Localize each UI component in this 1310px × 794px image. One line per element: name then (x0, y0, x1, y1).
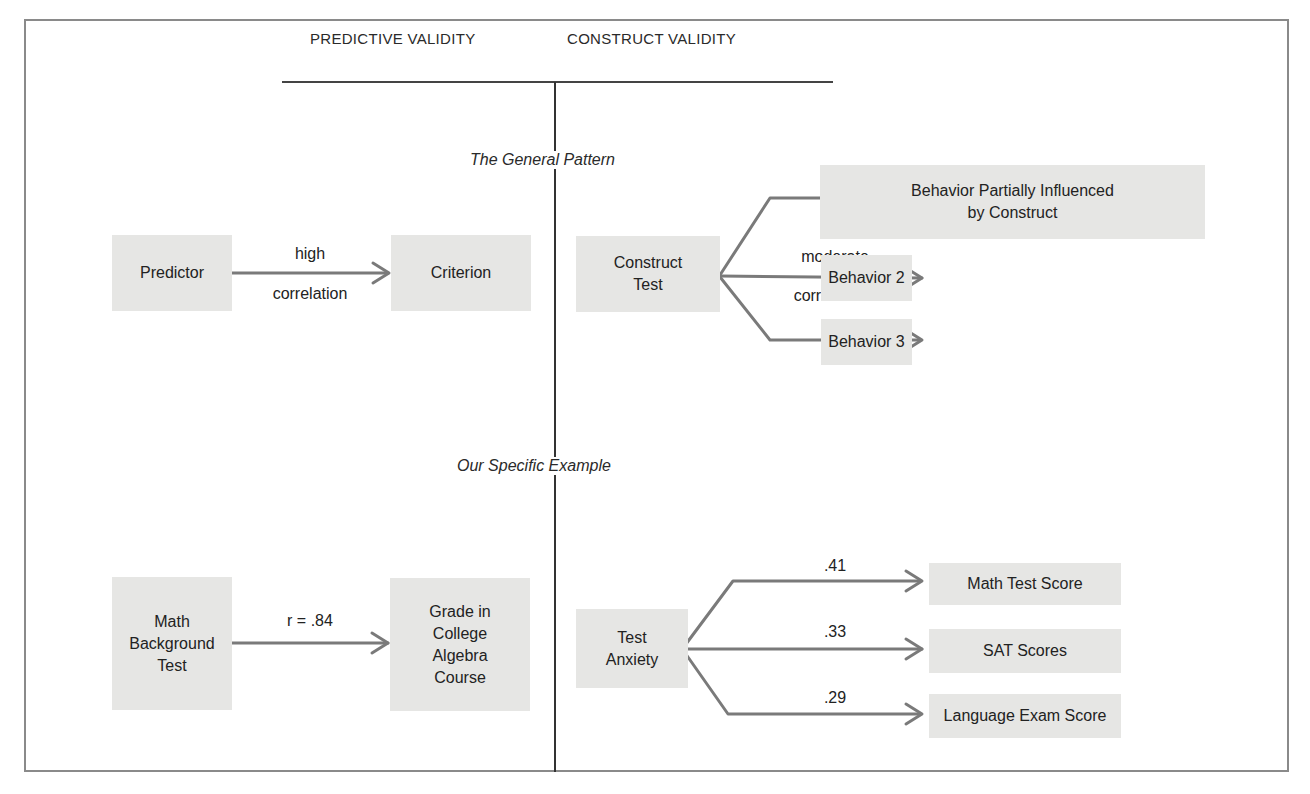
label-r-41: .41 (805, 557, 865, 575)
box-criterion: Criterion (391, 235, 531, 311)
box-sat-scores: SAT Scores (929, 629, 1121, 673)
box-math-background-test: Math Background Test (112, 577, 232, 710)
arrow-anxiety-language (683, 650, 920, 714)
arrow-anxiety-math (683, 581, 920, 648)
box-math-test-score: Math Test Score (929, 563, 1121, 605)
label-r-29: .29 (805, 689, 865, 707)
box-test-anxiety: Test Anxiety (576, 609, 688, 688)
box-construct-test: Construct Test (576, 236, 720, 312)
box-behavior-2: Behavior 2 (821, 255, 912, 301)
label-r-84: r = .84 (265, 612, 355, 630)
label-correlation: correlation (255, 285, 365, 303)
box-behavior-partially-influenced: Behavior Partially Influenced by Constru… (820, 165, 1205, 239)
label-high: high (280, 245, 340, 263)
box-language-exam-score: Language Exam Score (929, 694, 1121, 738)
box-behavior-3: Behavior 3 (821, 319, 912, 365)
box-grade-college-algebra: Grade in College Algebra Course (390, 578, 530, 711)
box-predictor: Predictor (112, 235, 232, 311)
label-r-33: .33 (805, 623, 865, 641)
